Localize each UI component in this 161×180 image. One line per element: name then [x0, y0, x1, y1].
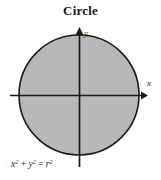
y-axis-arrowhead-icon	[76, 27, 84, 35]
x-axis-label: x	[146, 78, 151, 88]
y-axis-label: y	[83, 28, 88, 38]
equation-plus: +	[18, 159, 28, 169]
circle-plot: x y x2 + y2 = r2	[0, 0, 161, 180]
x-axis-arrowhead-icon	[141, 92, 148, 100]
equation-r-exponent: 2	[50, 158, 53, 165]
equation-equals: =	[36, 159, 46, 169]
circle-figure: Circle x y x2 + y2 = r2	[0, 0, 161, 180]
circle-equation: x2 + y2 = r2	[10, 158, 53, 170]
